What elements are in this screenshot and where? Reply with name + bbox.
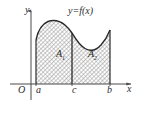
region-a1-shading: [36, 21, 72, 84]
region-label-a2: A2: [88, 49, 97, 61]
area-under-curve-figure: y x O a c b y=f(x) A1 A2: [0, 0, 141, 119]
region-label-a1: A1: [56, 49, 65, 61]
x-tick-label-b: b: [107, 85, 112, 95]
region-a2-subscript: 2: [94, 55, 97, 61]
figure-canvas: [0, 0, 141, 119]
curve-equation-label: y=f(x): [68, 6, 93, 16]
x-axis-label: x: [127, 84, 131, 94]
origin-label: O: [18, 85, 25, 95]
x-tick-label-a: a: [36, 85, 41, 95]
x-tick-label-c: c: [72, 85, 76, 95]
region-a1-subscript: 1: [62, 55, 65, 61]
y-axis-label: y: [25, 5, 29, 15]
